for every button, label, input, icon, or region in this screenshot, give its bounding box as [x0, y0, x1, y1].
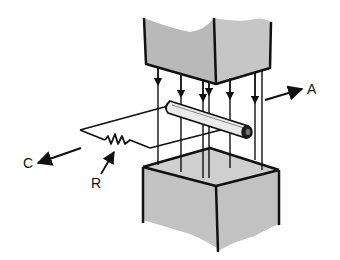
diagram-canvas: A C R	[0, 0, 340, 260]
label-C: C	[23, 156, 33, 170]
resistor-pointer-R	[101, 152, 114, 174]
label-R: R	[91, 176, 101, 190]
lower-magnet-pole	[143, 148, 279, 252]
current-arrow-C	[38, 148, 81, 163]
label-A: A	[307, 82, 316, 96]
induction-diagram	[0, 0, 340, 260]
motion-arrow-A	[265, 89, 302, 100]
upper-magnet-pole	[144, 18, 271, 84]
